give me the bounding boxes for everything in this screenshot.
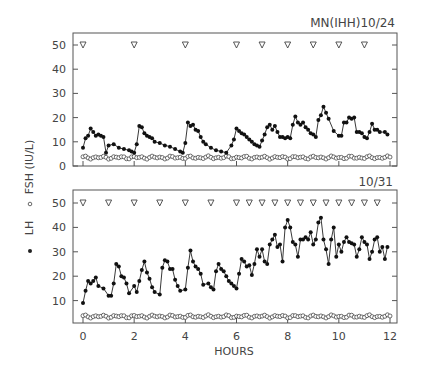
y-axis-label: FSH (IU/L) LH xyxy=(23,140,36,236)
pulse-triangle-icon xyxy=(323,200,329,206)
y-tick-label: 20 xyxy=(52,112,66,125)
y-tick-label: 10 xyxy=(52,295,66,308)
x-tick-label: 10 xyxy=(332,330,346,343)
pulse-triangle-icon xyxy=(131,200,137,206)
bottom-title: 10/31 xyxy=(358,175,393,189)
top-x-ticks xyxy=(83,161,390,166)
bottom-x-axis: 024681012 xyxy=(80,318,398,343)
pulse-triangle-icon xyxy=(374,200,380,206)
top-pulse-markers xyxy=(80,42,367,48)
pulse-triangle-icon xyxy=(182,200,188,206)
y-tick-label: 20 xyxy=(52,270,66,283)
x-tick-label: 6 xyxy=(233,330,240,343)
legend-filled-circle-icon xyxy=(28,249,32,253)
pulse-triangle-icon xyxy=(246,200,252,206)
y-tick-label: 40 xyxy=(52,221,66,234)
pulse-triangle-icon xyxy=(285,42,291,48)
y-tick-label: 40 xyxy=(52,63,66,76)
pulse-triangle-icon xyxy=(310,200,316,206)
pulse-triangle-icon xyxy=(285,200,291,206)
ylabel-lh: LH xyxy=(23,221,36,235)
pulse-triangle-icon xyxy=(131,42,137,48)
top-lh-series xyxy=(81,105,389,155)
x-axis-label: HOURS xyxy=(214,345,254,358)
pulse-triangle-icon xyxy=(80,42,86,48)
pulse-triangle-icon xyxy=(234,200,240,206)
y-tick-label: 0 xyxy=(59,160,66,173)
top-title: MN(IHH)10/24 xyxy=(310,16,395,30)
pulse-triangle-icon xyxy=(336,200,342,206)
x-tick-label: 8 xyxy=(284,330,291,343)
pulse-triangle-icon xyxy=(361,42,367,48)
hormone-pulse-figure: 50403020100 MN(IHH)10/24 5040302010 0246… xyxy=(0,0,422,380)
y-tick-label: 30 xyxy=(52,87,66,100)
top-fsh-series xyxy=(81,154,392,161)
pulse-triangle-icon xyxy=(272,200,278,206)
y-tick-label: 50 xyxy=(52,39,66,52)
top-panel: 50403020100 MN(IHH)10/24 xyxy=(52,16,397,173)
bottom-lh-series xyxy=(81,216,389,305)
y-tick-label: 10 xyxy=(52,136,66,149)
bottom-frame xyxy=(73,190,397,323)
pulse-triangle-icon xyxy=(297,200,303,206)
pulse-triangle-icon xyxy=(259,42,265,48)
ylabel-fsh: FSH (IU/L) xyxy=(23,140,36,195)
pulse-triangle-icon xyxy=(336,42,342,48)
pulse-triangle-icon xyxy=(310,42,316,48)
bottom-pulse-markers xyxy=(80,200,380,206)
fsh-label: FSH (IU/L) xyxy=(23,140,36,195)
pulse-triangle-icon xyxy=(361,200,367,206)
pulse-triangle-icon xyxy=(182,42,188,48)
pulse-triangle-icon xyxy=(80,200,86,206)
top-frame xyxy=(73,33,397,166)
bottom-panel: 5040302010 024681012 10/31 HOURS xyxy=(52,175,397,358)
pulse-triangle-icon xyxy=(349,200,355,206)
y-tick-label: 50 xyxy=(52,197,66,210)
x-tick-label: 0 xyxy=(80,330,87,343)
pulse-triangle-icon xyxy=(106,200,112,206)
x-tick-label: 2 xyxy=(131,330,138,343)
legend-open-circle-icon xyxy=(28,202,32,206)
y-tick-label: 30 xyxy=(52,246,66,259)
pulse-triangle-icon xyxy=(208,200,214,206)
pulse-triangle-icon xyxy=(157,200,163,206)
x-tick-label: 4 xyxy=(182,330,189,343)
pulse-triangle-icon xyxy=(234,42,240,48)
pulse-triangle-icon xyxy=(259,200,265,206)
bottom-y-axis: 5040302010 xyxy=(52,197,397,308)
x-tick-label: 12 xyxy=(383,330,397,343)
